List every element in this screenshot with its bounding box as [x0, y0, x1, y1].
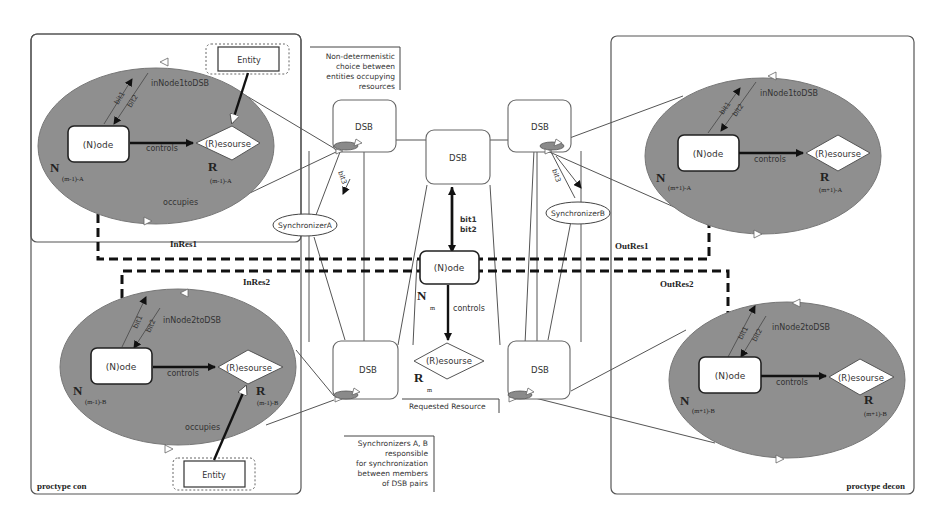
controls-label: controls	[754, 155, 786, 164]
occupies-label: occupies	[163, 198, 198, 207]
note-line: between members	[358, 469, 429, 478]
dsb-label: DSB	[449, 153, 467, 163]
r-subscript: (m-1)-B	[257, 399, 279, 407]
node-label: (N)ode	[83, 140, 114, 150]
dsb-label: DSB	[355, 122, 373, 132]
entity-label[interactable]: Entity	[237, 56, 261, 65]
channel-label: inNode2toDSB	[772, 323, 830, 332]
n-symbol: N	[50, 160, 60, 175]
channel-label: inNode2toDSB	[163, 316, 221, 325]
r-symbol: R	[208, 159, 218, 174]
resource-label: (R)esourse	[838, 373, 884, 383]
architecture-diagram: proctype con proctype decon	[0, 0, 945, 523]
bit2-label: bit2	[460, 225, 477, 234]
note-line: Synchronizers A, B	[358, 439, 428, 448]
r-symbol: R	[414, 370, 424, 385]
cluster-right-bottom: bit1 bit2 inNode2toDSB (N)ode controls (…	[669, 299, 905, 463]
channel-label: inNode1toDSB	[760, 89, 818, 98]
cluster-left-bottom: bit1 bit2 inNode2toDSB (N)ode controls (…	[60, 289, 296, 490]
r-subscript: (m-1)-A	[210, 177, 232, 185]
n-symbol: N	[680, 393, 690, 408]
node-label: (N)ode	[715, 371, 746, 381]
dsb-label: DSB	[531, 122, 549, 132]
synchronizer-b[interactable]: bit3 SynchronizerB	[546, 156, 610, 224]
note-line: for synchronization	[356, 459, 428, 468]
note-nondeterministic: Non-determenistic choice between entitie…	[310, 47, 400, 91]
synchronizer-a[interactable]: bit3 SynchronizerA	[273, 170, 350, 236]
dsb-label: DSB	[359, 365, 377, 375]
dsb-bottom-right[interactable]: DSB	[508, 341, 570, 402]
controls-label: controls	[776, 378, 808, 387]
n-symbol: N	[73, 383, 83, 398]
dsb-top-right[interactable]: DSB	[508, 100, 571, 154]
entity-label[interactable]: Entity	[202, 471, 226, 480]
r-subscript: (m+1)-A	[819, 186, 842, 194]
flow-triangle-icon	[160, 58, 168, 66]
node-label: (N)ode	[693, 149, 724, 159]
channel-label: inNode1toDSB	[151, 79, 209, 88]
controls-label: controls	[167, 369, 199, 378]
n-symbol: N	[417, 288, 427, 303]
note-line: of DSB pairs	[382, 479, 428, 488]
n-subscript: (m+1)-A	[668, 184, 691, 192]
controls-label: controls	[453, 304, 485, 313]
r-symbol: R	[820, 169, 830, 184]
r-subscript: (m+1)-B	[864, 410, 887, 418]
inres1-label: InRes1	[170, 239, 198, 249]
bit1-label: bit1	[460, 215, 477, 224]
note-line: Non-determenistic	[326, 52, 395, 61]
dsb-top-left[interactable]: DSB	[333, 100, 396, 154]
controls-label: controls	[146, 144, 178, 153]
node-label: (N)ode	[106, 362, 137, 372]
note-line: responsible	[385, 449, 428, 458]
n-subscript: (m+1)-B	[692, 407, 715, 415]
occupies-label: occupies	[185, 423, 220, 432]
bit3-label: bit3	[336, 170, 348, 186]
process-decon-label: proctype decon	[846, 481, 905, 491]
dsb-top-center[interactable]: DSB	[426, 130, 490, 184]
note-line: choice between	[336, 62, 395, 71]
inres2-label: InRes2	[243, 277, 271, 287]
dsb-label: DSB	[531, 365, 549, 375]
center-cluster: bit1 bit2 (N)ode controls N m (R)esourse…	[402, 187, 499, 413]
n-subscript: m	[430, 304, 435, 311]
n-subscript: (m-1)-A	[62, 175, 84, 183]
flow-triangle-icon	[165, 445, 173, 453]
process-con-label: proctype con	[37, 481, 87, 491]
r-subscript: m	[427, 386, 432, 393]
resource-label: (R)esourse	[226, 363, 272, 373]
note-line: entities occupying	[326, 72, 395, 81]
outres1-label: OutRes1	[615, 241, 649, 251]
note-synchronizers: Synchronizers A, B responsible for synch…	[344, 436, 434, 492]
center-resource-label: (R)esourse	[426, 356, 472, 366]
synchronizer-b-label: SynchronizerB	[551, 209, 605, 218]
resource-label: (R)esourse	[205, 139, 251, 149]
resource-label: (R)esourse	[815, 149, 861, 159]
cluster-left-top: bit1 bit2 inNode1toDSB (N)ode controls (…	[38, 44, 289, 225]
note-line: resources	[359, 82, 395, 91]
n-symbol: N	[656, 170, 666, 185]
r-symbol: R	[256, 383, 266, 398]
center-node-label: (N)ode	[434, 263, 465, 273]
synchronizer-a-label: SynchronizerA	[278, 221, 333, 230]
dsb-bottom-left[interactable]: DSB	[333, 341, 398, 402]
r-symbol: R	[864, 392, 874, 407]
outres2-label: OutRes2	[660, 279, 694, 289]
requested-resource-label: Requested Resource	[409, 402, 486, 411]
n-subscript: (m-1)-B	[85, 398, 107, 406]
